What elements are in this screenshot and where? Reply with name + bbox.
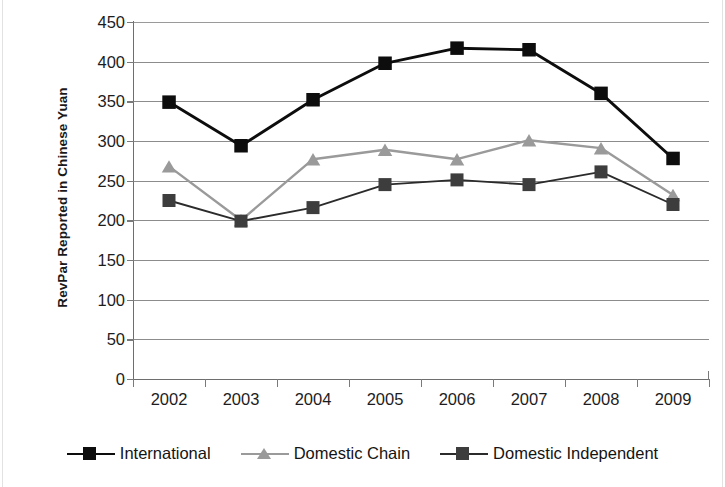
- legend-triangle-icon: [257, 448, 271, 459]
- data-point-2002-268: [162, 160, 177, 172]
- legend-marker-icon: [67, 444, 115, 462]
- legend-marker-icon: [440, 444, 488, 462]
- legend-label: Domestic Independent: [493, 445, 658, 462]
- chart-container: RevPar Reported in Chinese Yuan 05010015…: [0, 0, 725, 487]
- data-point-2002-349: [162, 95, 176, 109]
- data-point-2008-360: [594, 87, 608, 101]
- legend-square-icon: [456, 447, 469, 460]
- chart-legend: InternationalDomestic ChainDomestic Inde…: [0, 444, 725, 462]
- legend-square-icon: [83, 447, 96, 460]
- data-point-2007-415: [522, 43, 536, 57]
- series-domestic-independent: [163, 165, 680, 227]
- legend-label: Domestic Chain: [294, 445, 410, 462]
- data-point-2006-251: [451, 173, 464, 186]
- legend-item-international[interactable]: International: [67, 444, 211, 462]
- legend-marker-icon: [241, 444, 289, 462]
- data-point-2005-245: [379, 178, 392, 191]
- data-point-2004-352: [306, 93, 320, 107]
- data-series-layer: [0, 0, 725, 487]
- data-point-2002-225: [163, 194, 176, 207]
- data-point-2008-261: [595, 165, 608, 178]
- data-point-2004-216: [307, 201, 320, 214]
- data-point-2009-278: [666, 152, 680, 166]
- data-point-2007-245: [523, 178, 536, 191]
- legend-item-domestic-chain[interactable]: Domestic Chain: [241, 444, 410, 462]
- data-point-2003-294: [234, 139, 248, 153]
- data-point-2009-220: [667, 198, 680, 211]
- data-point-2003-199: [235, 215, 248, 228]
- data-point-2006-417: [450, 41, 464, 55]
- series-line: [169, 172, 673, 221]
- data-point-2005-398: [378, 57, 392, 71]
- legend-item-domestic-independent[interactable]: Domestic Independent: [440, 444, 658, 462]
- legend-label: International: [120, 445, 211, 462]
